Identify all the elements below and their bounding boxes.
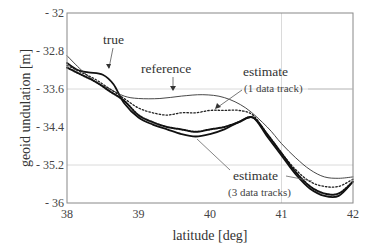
x-tick-label: 39 <box>133 207 145 221</box>
curve-reference <box>67 56 353 179</box>
x-axis-ticks: 3839404142 <box>61 207 359 221</box>
arrowhead-icon <box>170 86 176 91</box>
arrowhead-icon <box>106 64 111 69</box>
y-axis-title: geoid undulation [m] <box>18 49 33 167</box>
annotation-estimate-1-sublabel: (1 data track) <box>244 82 303 95</box>
annotation-estimate-3-label: estimate <box>233 168 278 183</box>
curve-estimate-1-data-track <box>67 65 353 187</box>
y-tick-label: - 32 <box>45 6 64 20</box>
annotation-reference-label: reference <box>141 61 191 76</box>
curve-estimate-3-data-tracks <box>67 68 353 195</box>
y-tick-label: - 33.6 <box>36 82 64 96</box>
x-tick-label: 40 <box>204 207 216 221</box>
x-tick-label: 41 <box>276 207 288 221</box>
annotation-estimate-1-arrow <box>218 90 242 107</box>
annotation-true: true <box>103 32 124 69</box>
annotation-reference: reference <box>141 61 191 91</box>
data-curves <box>67 56 353 198</box>
y-tick-label: - 34.4 <box>36 120 64 134</box>
annotation-estimate-1-label: estimate <box>243 64 288 79</box>
y-tick-label: - 32.8 <box>36 44 64 58</box>
x-axis-title: latitude [deg] <box>172 228 247 243</box>
annotation-estimate-3-sublabel: (3 data tracks) <box>228 186 291 199</box>
annotation-estimate-3-tracks: estimate (3 data tracks) <box>197 139 312 199</box>
x-tick-label: 42 <box>347 207 359 221</box>
y-axis-ticks: - 32- 32.8- 33.6- 34.4- 35.2- 36 <box>36 6 64 210</box>
x-tick-label: 38 <box>61 207 73 221</box>
geoid-undulation-chart: - 32- 32.8- 33.6- 34.4- 35.2- 36 3839404… <box>0 0 376 248</box>
annotation-true-label: true <box>103 32 124 47</box>
y-tick-label: - 35.2 <box>36 158 64 172</box>
